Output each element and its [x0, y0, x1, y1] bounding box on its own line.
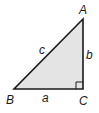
triangle-shape — [14, 19, 83, 89]
vertex-label-b: B — [6, 93, 14, 107]
vertex-label-c: C — [79, 94, 88, 108]
side-label-b: b — [86, 48, 93, 62]
vertex-label-a: A — [78, 3, 87, 17]
side-label-c: c — [39, 43, 45, 57]
right-triangle-diagram: A B C a b c — [0, 0, 99, 113]
side-label-a: a — [42, 91, 49, 105]
